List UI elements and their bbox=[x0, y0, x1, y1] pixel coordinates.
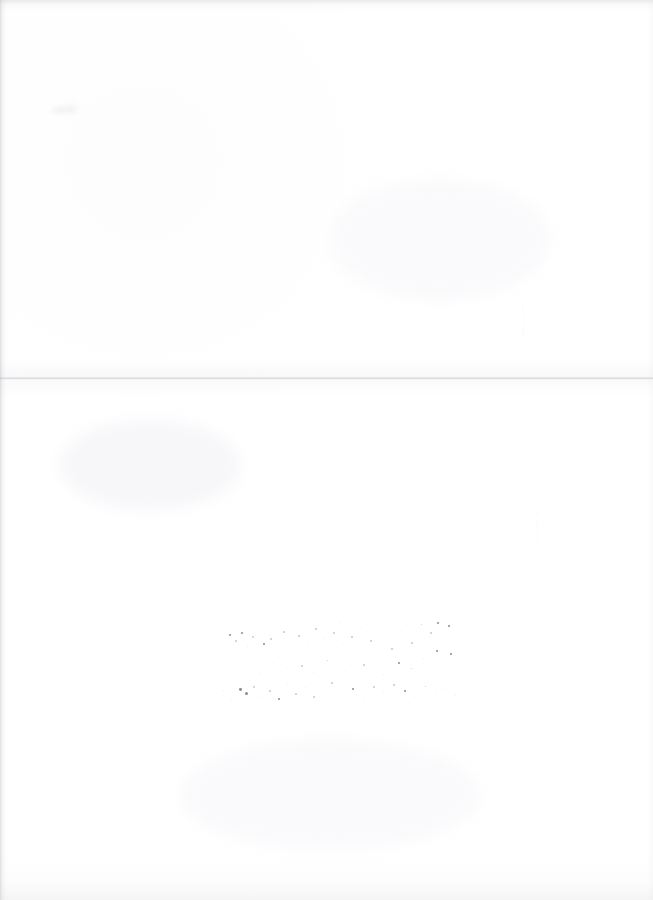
paper-haze-2 bbox=[330, 180, 550, 300]
scan-edge-right bbox=[647, 0, 653, 900]
scanned-page: ··· ·· ····· ·· ··· ···· bbox=[0, 0, 653, 900]
fold-shadow-lower bbox=[0, 380, 653, 396]
fold-shadow-upper bbox=[0, 360, 653, 378]
paper-haze-1 bbox=[60, 420, 240, 510]
scan-edge-top bbox=[0, 0, 653, 11]
scan-edge-bottom bbox=[0, 854, 653, 900]
scan-edge-left bbox=[0, 0, 9, 900]
margin-note-upper: ··· ·· ····· bbox=[519, 303, 527, 336]
margin-note-lower: ·· ··· ···· bbox=[533, 512, 541, 542]
smudge-upper-left bbox=[46, 99, 86, 123]
paper-haze-3 bbox=[180, 740, 480, 850]
